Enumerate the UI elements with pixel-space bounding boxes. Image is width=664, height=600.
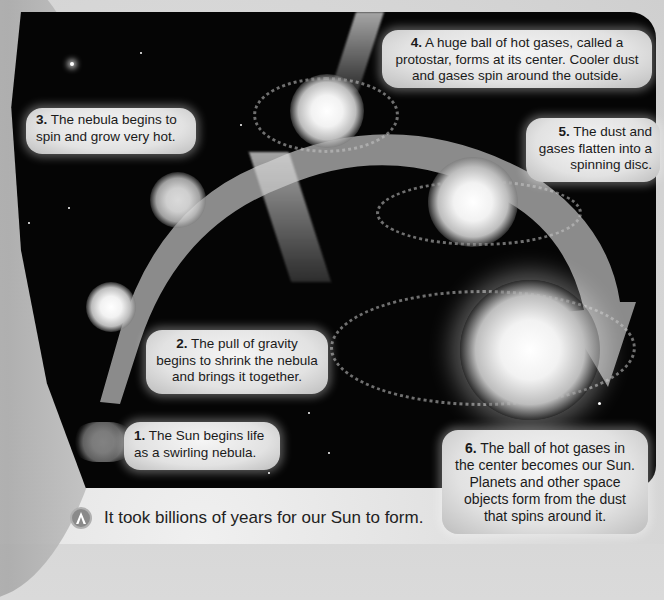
figure-caption: It took billions of years for our Sun to… [70, 504, 423, 532]
spinning-nebula [150, 172, 206, 228]
step-1-callout: 1. The Sun begins life as a swirling neb… [124, 422, 280, 470]
sun [460, 280, 600, 420]
step-5-callout: 5. The dust and gases flatten into a spi… [526, 118, 660, 182]
protostar [290, 74, 364, 148]
step-number: 4. [411, 35, 422, 50]
step-3-callout: 3. The nebula begins to spin and grow ve… [26, 108, 196, 154]
step-4-callout: 4. A huge ball of hot gases, called a pr… [382, 30, 652, 88]
step-text: The dust and gases flatten into a spinni… [539, 124, 652, 172]
step-number: 5. [558, 124, 569, 139]
step-text: A huge ball of hot gases, called a proto… [395, 35, 638, 83]
step-number: 6. [465, 440, 477, 456]
contracting-nebula [86, 282, 136, 332]
step-2-callout: 2. The pull of gravity begins to shrink … [146, 330, 328, 394]
step-number: 2. [176, 336, 187, 351]
caption-text: It took billions of years for our Sun to… [104, 508, 423, 528]
triangle-badge-icon [70, 507, 92, 529]
step-6-callout: 6. The ball of hot gases in the center b… [442, 430, 648, 534]
step-text: The ball of hot gases in the center beco… [455, 440, 635, 524]
disc-star [428, 157, 518, 247]
step-number: 1. [134, 428, 145, 443]
step-text: The nebula begins to spin and grow very … [36, 112, 177, 144]
step-number: 3. [36, 112, 47, 127]
step-text: The Sun begins life as a swirling nebula… [134, 428, 264, 460]
